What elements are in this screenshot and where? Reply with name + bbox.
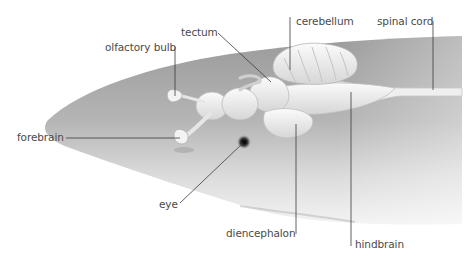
label-olfactory-bulb: olfactory bulb <box>105 41 176 53</box>
label-diencephalon: diencephalon <box>226 227 295 239</box>
fish-brain-diagram: tectum olfactory bulb cerebellum spinal … <box>0 0 470 259</box>
diagram-illustration <box>0 0 470 259</box>
label-forebrain: forebrain <box>17 131 64 143</box>
label-eye: eye <box>159 198 178 210</box>
label-spinal-cord: spinal cord <box>377 15 433 27</box>
label-tectum: tectum <box>181 26 218 38</box>
label-hindbrain: hindbrain <box>355 238 404 250</box>
cerebellum-shape <box>273 43 357 84</box>
fish-body <box>45 36 462 224</box>
label-cerebellum: cerebellum <box>296 15 354 27</box>
